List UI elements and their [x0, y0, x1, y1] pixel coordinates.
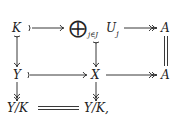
node-y: Y: [13, 69, 21, 81]
node-yk-left: Y/K: [7, 102, 28, 114]
node-k: K: [12, 22, 21, 34]
arrow-x-to-a-mid: [106, 72, 157, 78]
oplus-index: j∈J: [88, 32, 98, 39]
node-a-mid: A: [161, 69, 170, 81]
node-yk-right: Y/K,: [84, 102, 109, 114]
arrow-y-to-yk: [14, 82, 20, 101]
arrow-u-to-a-top: [124, 25, 157, 31]
arrow-k-to-y: [14, 36, 20, 67]
equal-a-a: [165, 36, 168, 66]
oplus-symbol: ⨁: [69, 19, 87, 37]
node-u: Uj: [106, 22, 119, 40]
u-letter: U: [106, 21, 116, 35]
arrow-y-to-x: [28, 72, 87, 78]
u-subscript: j: [116, 29, 118, 38]
node-x: X: [91, 69, 100, 81]
arrow-x-to-yk: [93, 82, 99, 101]
equal-yk-yk: [38, 107, 79, 110]
node-a-top: A: [161, 22, 170, 34]
arrow-k-to-oplus: [29, 25, 64, 31]
arrow-oplus-to-x: [93, 42, 99, 67]
